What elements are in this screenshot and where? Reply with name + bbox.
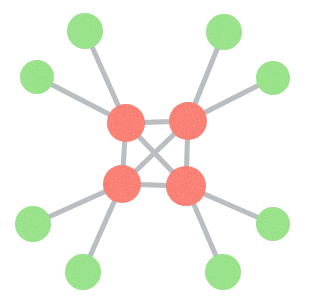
node-circle[interactable]: [166, 166, 206, 206]
node-circle[interactable]: [103, 165, 141, 203]
node-circle[interactable]: [107, 104, 145, 142]
node-circle[interactable]: [67, 13, 103, 49]
graph-node-leaf[interactable]: [65, 254, 101, 290]
graph-node-hub[interactable]: [169, 102, 207, 140]
network-graph-svg: [0, 0, 310, 305]
graph-node-leaf[interactable]: [256, 61, 290, 95]
graph-node-hub[interactable]: [166, 166, 206, 206]
graph-node-hub[interactable]: [103, 165, 141, 203]
graph-node-leaf[interactable]: [67, 13, 103, 49]
graph-node-leaf[interactable]: [256, 207, 290, 241]
graph-node-leaf[interactable]: [206, 14, 242, 50]
graph-node-leaf[interactable]: [15, 206, 51, 242]
node-circle[interactable]: [169, 102, 207, 140]
node-circle[interactable]: [206, 14, 242, 50]
node-circle[interactable]: [65, 254, 101, 290]
graph-node-leaf[interactable]: [20, 60, 54, 94]
graph-edges-layer: [33, 31, 273, 272]
node-circle[interactable]: [256, 61, 290, 95]
graph-canvas: [0, 0, 310, 305]
graph-node-hub[interactable]: [107, 104, 145, 142]
node-circle[interactable]: [256, 207, 290, 241]
node-circle[interactable]: [15, 206, 51, 242]
node-circle[interactable]: [205, 254, 241, 290]
node-circle[interactable]: [20, 60, 54, 94]
graph-node-leaf[interactable]: [205, 254, 241, 290]
